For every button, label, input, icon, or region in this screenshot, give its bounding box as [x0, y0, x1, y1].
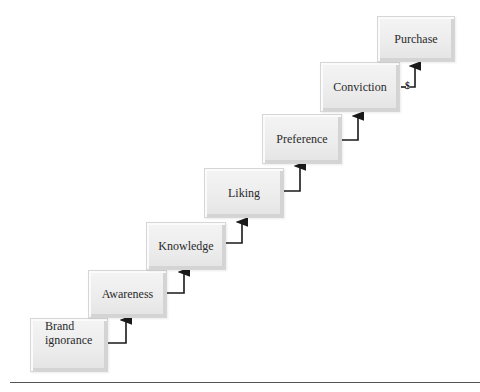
arrow-brand-to-awareness: [108, 320, 126, 343]
step-label: Purchase: [394, 32, 437, 46]
step-label: Conviction: [333, 80, 386, 94]
step-label: Preference: [276, 132, 327, 146]
step-label: Liking: [228, 186, 260, 200]
step-preference: Preference: [262, 114, 342, 164]
dollar-sign-label: $: [405, 80, 410, 91]
arrow-liking-to-preference: [284, 166, 300, 191]
step-liking: Liking: [204, 168, 284, 218]
step-label-line1: Brand: [45, 319, 74, 333]
step-awareness: Awareness: [88, 270, 167, 318]
bottom-divider: [10, 382, 480, 383]
step-purchase: Purchase: [377, 16, 455, 62]
step-brand-ignorance: Brand ignorance: [30, 318, 108, 372]
arrow-preference-to-conviction: [342, 116, 358, 140]
arrow-knowledge-to-liking: [226, 222, 242, 243]
step-label-line2: ignorance: [45, 333, 92, 347]
arrow-conviction-to-purchase-b: [410, 66, 415, 87]
arrow-awareness-to-knowledge: [167, 272, 184, 293]
step-label: Knowledge: [158, 239, 213, 253]
step-conviction: Conviction: [320, 62, 400, 112]
step-label: Awareness: [102, 287, 154, 301]
step-knowledge: Knowledge: [146, 222, 226, 270]
